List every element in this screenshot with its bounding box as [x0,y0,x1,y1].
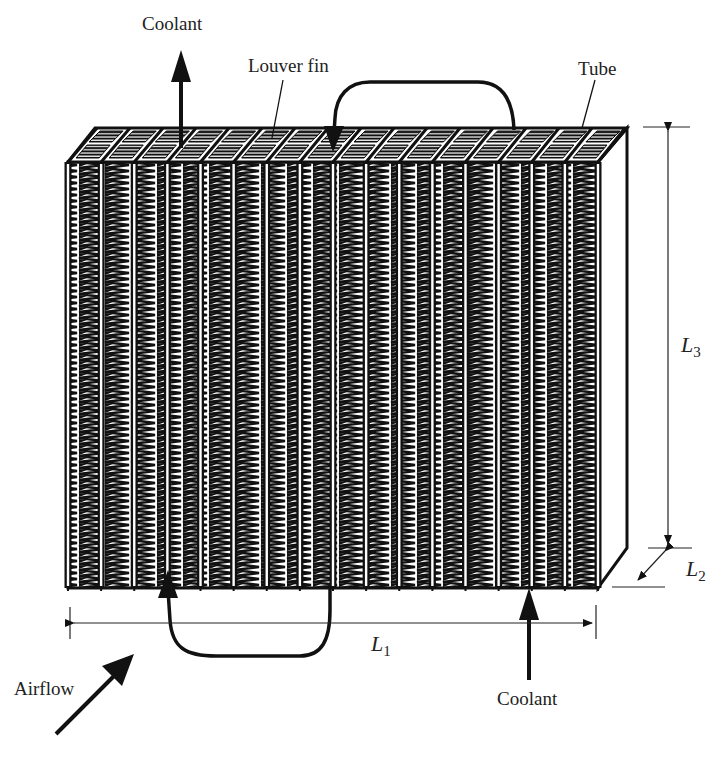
L2-subscript: 2 [698,568,706,584]
louver-fin-label: Louver fin [248,56,329,75]
tube [197,162,204,588]
tube [396,162,403,588]
tube [462,162,469,588]
L1-symbol: L [371,631,383,656]
side-face [598,128,627,588]
L1-subscript: 1 [383,643,391,659]
L3-symbol: L [681,332,693,357]
tube [230,162,237,588]
tube-leader [582,80,595,128]
tube [528,162,535,588]
coolant-inlet-arrow [519,588,539,680]
dimension-L1-label: L1 [371,633,391,659]
diagram-canvas [0,0,727,762]
L2-symbol: L [686,556,698,581]
tube [65,162,72,588]
tube [98,162,105,588]
coolant-outlet-label: Coolant [142,14,202,33]
tube [164,162,171,588]
tube-label: Tube [578,59,616,78]
L3-subscript: 3 [693,344,701,360]
tube [330,162,337,588]
heat-exchanger-diagram: Coolant Louver fin Tube Airflow Coolant … [0,0,727,762]
tube [263,162,270,588]
airflow-label: Airflow [14,679,74,698]
tube [131,162,138,588]
tube [595,162,602,588]
tube [495,162,502,588]
tube [363,162,370,588]
dimension-L2-label: L2 [686,558,706,584]
coolant-inlet-label: Coolant [497,689,557,708]
tube [429,162,436,588]
dimension-L1 [70,605,596,639]
dimension-L3-label: L3 [681,334,701,360]
tube [296,162,303,588]
tube [561,162,568,588]
